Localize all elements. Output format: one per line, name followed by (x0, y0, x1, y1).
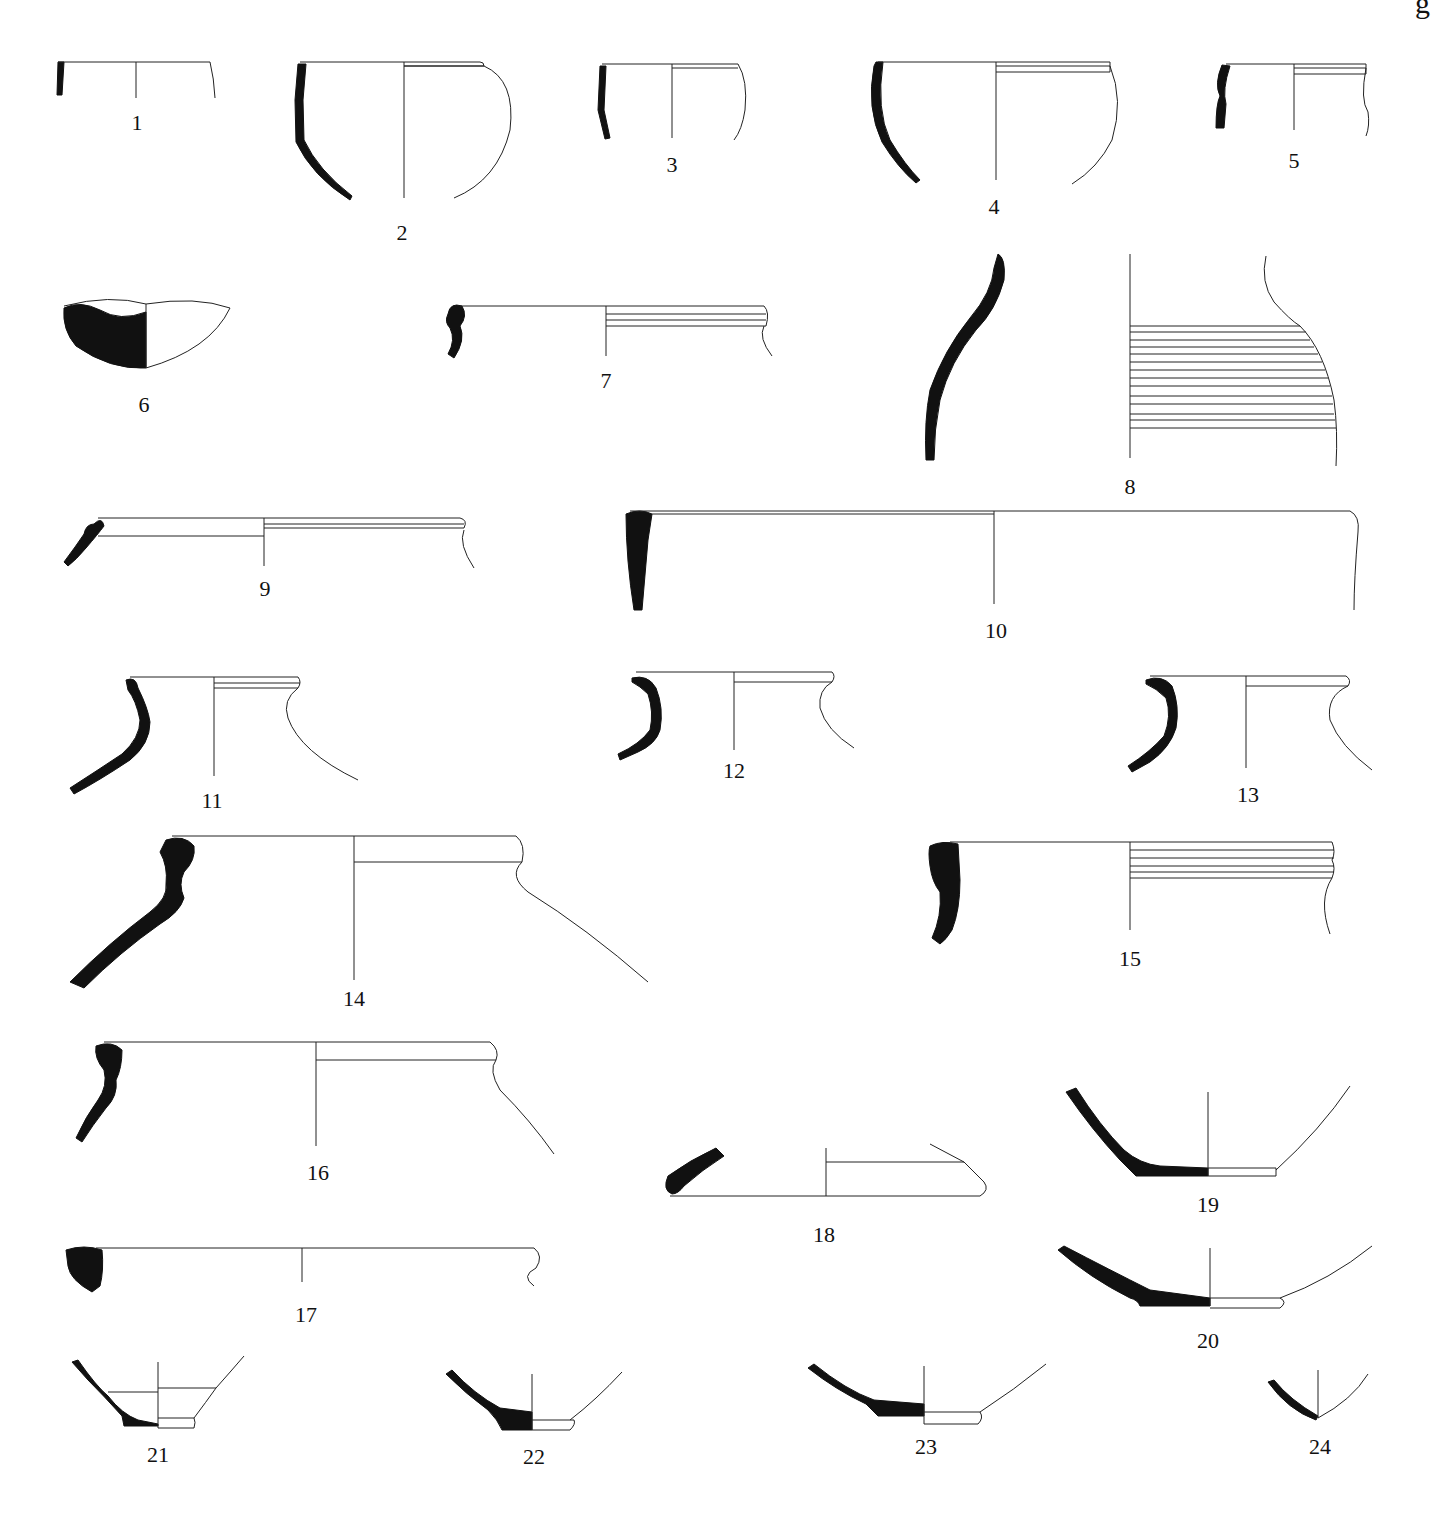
drawing-18 (666, 1144, 987, 1196)
drawing-4 (871, 62, 1117, 184)
drawing-label-3: 3 (667, 154, 678, 176)
drawing-14 (70, 836, 648, 988)
drawing-2 (295, 62, 511, 200)
drawing-label-16: 16 (307, 1162, 329, 1184)
drawing-13 (1128, 676, 1372, 772)
drawing-8 (926, 254, 1337, 466)
drawing-23 (808, 1364, 1046, 1424)
drawing-17 (66, 1247, 540, 1292)
drawing-24 (1268, 1370, 1368, 1420)
drawing-label-14: 14 (343, 988, 365, 1010)
drawing-label-4: 4 (989, 196, 1000, 218)
drawing-label-7: 7 (601, 370, 612, 392)
drawing-22 (446, 1370, 622, 1430)
drawing-10 (626, 511, 1358, 610)
drawing-label-21: 21 (147, 1444, 169, 1466)
drawing-19 (1066, 1086, 1350, 1176)
drawing-label-5: 5 (1289, 150, 1300, 172)
drawing-label-12: 12 (723, 760, 745, 782)
drawing-label-2: 2 (397, 222, 408, 244)
drawing-20 (1058, 1246, 1372, 1308)
drawing-11 (70, 677, 358, 794)
drawing-label-10: 10 (985, 620, 1007, 642)
drawing-label-24: 24 (1309, 1436, 1331, 1458)
drawing-label-1: 1 (132, 112, 143, 134)
drawing-label-19: 19 (1197, 1194, 1219, 1216)
drawing-label-8: 8 (1125, 476, 1136, 498)
drawing-9 (64, 518, 474, 568)
drawing-label-18: 18 (813, 1224, 835, 1246)
drawing-1 (57, 62, 215, 98)
drawing-7 (446, 305, 772, 358)
drawing-label-13: 13 (1237, 784, 1259, 806)
drawing-16 (76, 1042, 554, 1154)
drawing-label-23: 23 (915, 1436, 937, 1458)
drawing-label-17: 17 (295, 1304, 317, 1326)
drawing-15 (929, 842, 1334, 944)
drawing-label-11: 11 (201, 790, 222, 812)
drawing-21 (72, 1356, 244, 1428)
drawing-label-6: 6 (139, 394, 150, 416)
drawing-12 (618, 672, 854, 760)
drawing-label-20: 20 (1197, 1330, 1219, 1352)
drawing-5 (1216, 64, 1369, 136)
drawing-label-22: 22 (523, 1446, 545, 1468)
drawing-6 (64, 299, 230, 368)
pottery-plate (0, 0, 1438, 1517)
drawing-3 (598, 64, 746, 140)
drawing-label-9: 9 (260, 578, 271, 600)
drawing-label-15: 15 (1119, 948, 1141, 970)
